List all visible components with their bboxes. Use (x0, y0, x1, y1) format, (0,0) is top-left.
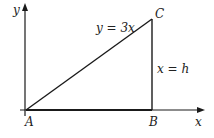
hypotenuse-equation: y = 3x (95, 21, 135, 35)
vertical-line-equation: x = h (157, 62, 189, 76)
point-b-label: B (148, 115, 158, 129)
triangle-diagram: y x A B C y = 3x x = h (0, 0, 214, 138)
y-axis-label: y (12, 3, 20, 17)
x-axis-label: x (195, 115, 202, 129)
y-axis-arrow-icon (22, 3, 28, 11)
point-c-label: C (155, 7, 164, 21)
x-axis-arrow-icon (197, 107, 205, 113)
point-a-label: A (24, 115, 34, 129)
